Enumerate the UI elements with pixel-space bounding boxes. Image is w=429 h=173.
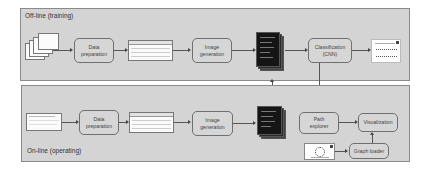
online-panel-title: On-line (operating) bbox=[27, 147, 81, 154]
online-image-generation-node: Image generation bbox=[192, 111, 233, 136]
classification-cnn-node: Classification (CNN) bbox=[308, 38, 352, 63]
online-table-icon bbox=[129, 112, 174, 133]
offline-table-icon bbox=[128, 40, 173, 61]
offline-data-preparation-node: Data preparation bbox=[74, 38, 114, 63]
online-document-icon bbox=[26, 113, 62, 131]
graph-loader-node: Graph loader bbox=[349, 143, 389, 159]
path-explorer-node: Path explorer bbox=[299, 112, 339, 134]
offline-panel-title: Off-line (training) bbox=[25, 12, 73, 19]
graph-icon bbox=[304, 143, 335, 160]
offline-image-generation-node: Image generation bbox=[192, 38, 232, 63]
online-data-preparation-node: Data preparation bbox=[79, 110, 119, 135]
visualization-node: Visualization bbox=[358, 113, 398, 132]
classification-result-icon bbox=[371, 39, 401, 63]
